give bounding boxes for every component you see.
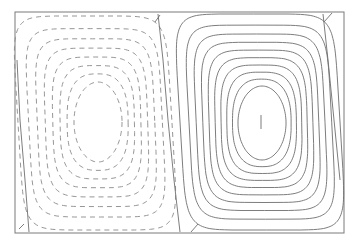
contour-cells: [14, 14, 343, 230]
contour-line: [36, 39, 157, 207]
plot-frame: [15, 12, 344, 233]
contour-line: [74, 82, 122, 162]
left-cell: [14, 16, 175, 230]
separatrix-right-edge: [323, 14, 340, 180]
contour-line: [60, 66, 135, 179]
corner-tick: [19, 224, 24, 229]
contour-line: [67, 74, 128, 170]
corner-tick: [191, 224, 198, 232]
corner-tick: [324, 13, 332, 22]
contour-line: [233, 79, 292, 167]
contour-line: [14, 16, 175, 230]
contour-line: [186, 25, 334, 219]
corner-tick: [155, 15, 160, 22]
right-cell: [176, 14, 343, 230]
contour-plot: [0, 0, 356, 247]
contour-line: [238, 86, 286, 160]
